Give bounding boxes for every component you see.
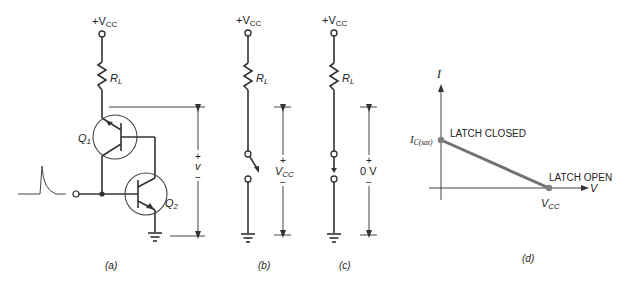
resistor-label-b: RL xyxy=(256,72,268,86)
x-axis-label: V xyxy=(590,182,599,194)
caption-c: (c) xyxy=(339,260,351,271)
y-intercept-label: IC(sat) xyxy=(409,133,433,147)
resistor-rl-a xyxy=(98,62,106,90)
switch-terminal-bottom-b xyxy=(245,176,251,182)
switch-terminal-top-b xyxy=(245,151,251,157)
q1-label: Q1 xyxy=(78,132,91,146)
q2-label: Q2 xyxy=(165,197,179,211)
point-latch-closed xyxy=(438,137,444,143)
panel-b: +VCC RL + VCC − (b) xyxy=(236,14,294,271)
ground-icon xyxy=(148,233,162,241)
panel-a: +VCC RL Q1 Q2 xyxy=(18,15,205,271)
caption-a: (a) xyxy=(105,260,117,271)
panel-c: +VCC RL + 0 V − (c) xyxy=(322,14,377,271)
latch-closed-label: LATCH CLOSED xyxy=(450,128,526,139)
junction-dot xyxy=(99,191,104,196)
voltage-minus-b: − xyxy=(280,177,286,188)
x-intercept-label: VCC xyxy=(541,197,560,211)
caption-b: (b) xyxy=(258,260,270,271)
voltage-label-c: 0 V xyxy=(360,165,377,177)
latch-circuit-figure: +VCC RL Q1 Q2 xyxy=(0,0,630,283)
point-latch-open xyxy=(546,185,552,191)
supply-terminal-a xyxy=(99,31,105,37)
voltage-label-a: v xyxy=(195,160,202,172)
ground-icon xyxy=(327,234,341,242)
panel-d-load-line: I V IC(sat) LATCH CLOSED LATCH OPEN VCC … xyxy=(409,67,612,264)
resistor-label-a: RL xyxy=(110,72,122,86)
resistor-label-c: RL xyxy=(342,72,354,86)
voltage-minus-c: − xyxy=(366,177,372,188)
latch-open-label: LATCH OPEN xyxy=(549,172,612,183)
input-terminal xyxy=(73,191,79,197)
resistor-rl-c xyxy=(330,63,338,90)
caption-d: (d) xyxy=(522,253,534,264)
trigger-pulse xyxy=(18,166,66,194)
switch-terminal-bottom-c xyxy=(331,176,337,182)
resistor-rl-b xyxy=(244,63,252,90)
voltage-minus-a: − xyxy=(195,172,201,183)
supply-label-c: +VCC xyxy=(322,14,348,28)
y-axis-label: I xyxy=(436,67,442,81)
switch-terminal-top-c xyxy=(331,151,337,157)
load-line xyxy=(441,140,549,188)
supply-label-a: +VCC xyxy=(92,15,118,29)
supply-label-b: +VCC xyxy=(236,14,262,28)
ground-icon xyxy=(241,234,255,242)
